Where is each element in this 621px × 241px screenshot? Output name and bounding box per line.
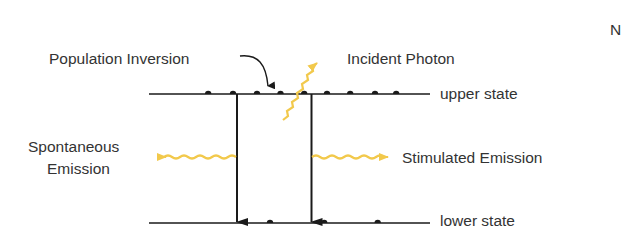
spontaneous-emission-label-line1: Spontaneous [28,139,119,155]
lower-state-label: lower state [440,213,515,229]
stimulated-emission-label: Stimulated Emission [402,150,542,166]
spontaneous-emission-label-line2: Emission [47,161,110,177]
stimulated-photon-icon [312,156,388,159]
upper-state-label: upper state [440,86,518,102]
incident-photon-label: Incident Photon [347,51,455,67]
spontaneous-photon-icon [164,156,236,159]
clipped-letter: N [610,22,621,38]
population-inversion-pointer [240,56,268,86]
population-inversion-label: Population Inversion [49,51,189,67]
